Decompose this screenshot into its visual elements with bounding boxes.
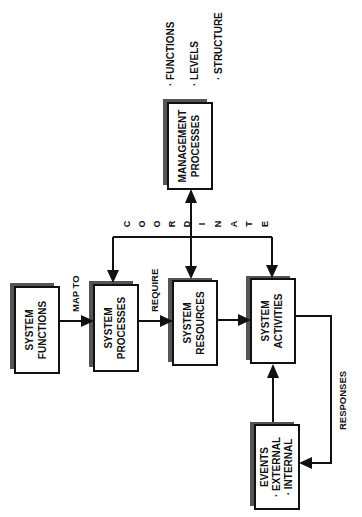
edge-responses: RESPONSES bbox=[295, 316, 348, 469]
svg-text:MAP TO: MAP TO bbox=[70, 275, 81, 312]
svg-text:REQUIRE: REQUIRE bbox=[149, 269, 160, 312]
svg-text:I: I bbox=[197, 223, 207, 226]
svg-text:C: C bbox=[122, 220, 132, 227]
svg-text:RESOURCES: RESOURCES bbox=[195, 291, 206, 355]
diagram-canvas: SYSTEM FUNCTIONS SYSTEM PROCESSES SYSTEM… bbox=[0, 0, 362, 517]
node-system-resources: SYSTEM RESOURCES bbox=[168, 278, 217, 365]
svg-text:· LEVELS: · LEVELS bbox=[189, 41, 200, 86]
node-events: EVENTS · EXTERNAL · INTERNAL bbox=[250, 422, 299, 509]
svg-text:N: N bbox=[213, 221, 223, 228]
svg-text:SYSTEM: SYSTEM bbox=[182, 302, 193, 343]
edge-resources-to-activities bbox=[217, 314, 251, 326]
svg-text:· INTERNAL: · INTERNAL bbox=[283, 439, 294, 496]
svg-text:T: T bbox=[244, 221, 254, 227]
svg-text:A: A bbox=[229, 220, 239, 227]
svg-text:D: D bbox=[182, 220, 192, 227]
svg-text:RESPONSES: RESPONSES bbox=[337, 371, 348, 430]
edge-require: REQUIRE bbox=[138, 269, 173, 327]
edge-coordinate: C O O R D I N A T E bbox=[107, 189, 278, 283]
arrowhead-icon bbox=[267, 364, 279, 378]
management-attributes-list: · FUNCTIONS · LEVELS · STRUCTURE bbox=[165, 12, 224, 86]
svg-text:EVENTS: EVENTS bbox=[259, 447, 270, 487]
svg-text:MANAGEMENT: MANAGEMENT bbox=[177, 110, 188, 183]
svg-text:FUNCTIONS: FUNCTIONS bbox=[37, 301, 48, 360]
coordinate-label: C O O R D I N A T E bbox=[122, 220, 270, 227]
svg-text:ACTIVITIES: ACTIVITIES bbox=[273, 293, 284, 348]
svg-text:· EXTERNAL: · EXTERNAL bbox=[271, 437, 282, 497]
edge-map-to: MAP TO bbox=[59, 275, 94, 327]
arrowhead-icon bbox=[299, 457, 312, 469]
svg-text:R: R bbox=[167, 220, 177, 227]
svg-text:· STRUCTURE: · STRUCTURE bbox=[213, 12, 224, 80]
svg-text:SYSTEM: SYSTEM bbox=[103, 307, 114, 348]
svg-text:E: E bbox=[260, 221, 270, 227]
svg-text:PROCESSES: PROCESSES bbox=[116, 297, 127, 360]
svg-text:SYSTEM: SYSTEM bbox=[24, 309, 35, 350]
arrowhead-icon bbox=[185, 266, 197, 279]
arrowhead-icon bbox=[185, 189, 197, 203]
svg-text:SYSTEM: SYSTEM bbox=[260, 300, 271, 341]
edge-events-to-activities bbox=[267, 364, 279, 422]
node-system-functions: SYSTEM FUNCTIONS bbox=[10, 283, 59, 373]
node-system-processes: SYSTEM PROCESSES bbox=[89, 281, 138, 371]
node-management-processes: MANAGEMENT PROCESSES bbox=[163, 99, 212, 189]
svg-text:O: O bbox=[137, 220, 147, 227]
node-system-activities: SYSTEM ACTIVITIES bbox=[246, 276, 295, 363]
svg-text:PROCESSES: PROCESSES bbox=[190, 115, 201, 178]
svg-text:O: O bbox=[152, 220, 162, 227]
svg-text:· FUNCTIONS: · FUNCTIONS bbox=[165, 21, 176, 86]
